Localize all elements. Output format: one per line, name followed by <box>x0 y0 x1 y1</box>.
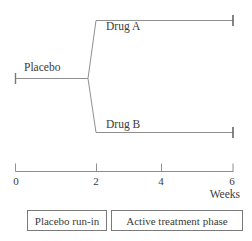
axis-tick-label-6: 6 <box>229 176 235 187</box>
study-design-figure: Placebo Drug A Drug B 0 2 4 6 Weeks Plac… <box>0 0 252 241</box>
placebo-arm-label: Placebo <box>24 62 60 73</box>
fork-lower-line <box>88 79 96 133</box>
phase-box-active-treatment-label: Active treatment phase <box>126 215 227 227</box>
phase-box-active-treatment: Active treatment phase <box>111 210 243 231</box>
axis-tick-label-2: 2 <box>93 176 99 187</box>
phase-box-placebo-run-in: Placebo run-in <box>27 210 107 231</box>
axis-tick-label-4: 4 <box>158 176 164 187</box>
drug-a-arm-label: Drug A <box>106 21 140 32</box>
axis-tick-label-0: 0 <box>13 176 19 187</box>
phase-box-placebo-run-in-label: Placebo run-in <box>35 215 99 227</box>
fork-upper-line <box>88 21 96 79</box>
drug-b-arm-label: Drug B <box>106 119 140 130</box>
axis-unit-label: Weeks <box>198 189 240 200</box>
